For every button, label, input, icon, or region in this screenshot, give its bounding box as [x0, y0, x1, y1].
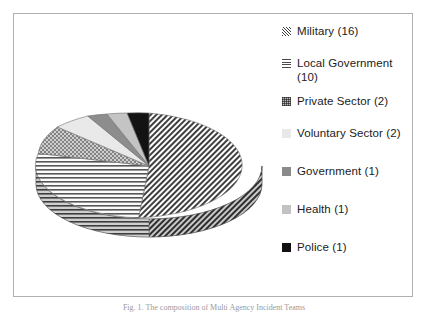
pie-chart-svg — [14, 69, 272, 249]
legend-item-police[interactable]: Police (1) — [282, 240, 412, 254]
legend-label-police: Police (1) — [297, 240, 347, 254]
figure-caption: Fig. 1. The composition of Multi Agency … — [0, 303, 428, 319]
legend-item-government[interactable]: Government (1) — [282, 164, 412, 178]
legend-item-voluntary-sector[interactable]: Voluntary Sector (2) — [282, 126, 412, 140]
very-light-gray-swatch-icon — [282, 129, 291, 138]
black-swatch-icon — [282, 243, 291, 252]
dotted-swatch-icon — [282, 97, 291, 106]
figure-container: Military (16) Local Government (10) Priv… — [0, 0, 428, 319]
legend-label-military: Military (16) — [297, 24, 358, 38]
chart-frame: Military (16) Local Government (10) Priv… — [13, 13, 413, 297]
pie-chart — [14, 69, 272, 249]
pie-slice-military — [139, 113, 243, 218]
legend-label-local-government: Local Government (10) — [297, 56, 412, 84]
diagonal-stripe-swatch-icon — [282, 27, 291, 36]
light-gray-swatch-icon — [282, 205, 291, 214]
mid-gray-swatch-icon — [282, 167, 291, 176]
legend-label-voluntary-sector: Voluntary Sector (2) — [297, 126, 401, 140]
legend: Military (16) Local Government (10) Priv… — [282, 24, 412, 288]
legend-label-government: Government (1) — [297, 164, 379, 178]
horizontal-stripe-swatch-icon — [282, 59, 291, 68]
legend-item-health[interactable]: Health (1) — [282, 202, 412, 216]
legend-label-private-sector: Private Sector (2) — [297, 94, 388, 108]
legend-item-military[interactable]: Military (16) — [282, 24, 412, 38]
legend-item-local-government[interactable]: Local Government (10) — [282, 56, 412, 84]
legend-label-health: Health (1) — [297, 202, 349, 216]
legend-item-private-sector[interactable]: Private Sector (2) — [282, 94, 412, 108]
